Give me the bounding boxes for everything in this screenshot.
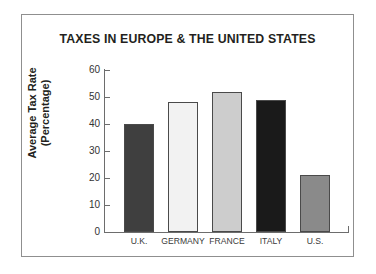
- bar-france: [212, 92, 242, 232]
- x-axis-label-u-k: U.K.: [117, 236, 161, 246]
- plot-area: [104, 70, 348, 232]
- x-axis-label-u-s: U.S.: [293, 236, 337, 246]
- x-axis-end-tick: [348, 226, 349, 233]
- y-axis-tick-label: 30: [78, 146, 100, 156]
- bar-u-s: [300, 175, 330, 232]
- x-axis-label-germany: GERMANY: [161, 236, 205, 246]
- y-axis-tick-label: 60: [78, 65, 100, 75]
- y-axis-tick-label: 50: [78, 92, 100, 102]
- y-axis-tick-label: 10: [78, 200, 100, 210]
- bar-italy: [256, 100, 286, 232]
- bar-u-k: [124, 124, 154, 232]
- y-axis-tick: [105, 232, 110, 233]
- bar-germany: [168, 102, 198, 232]
- x-axis-label-italy: ITALY: [249, 236, 293, 246]
- y-axis-tick-label: 40: [78, 119, 100, 129]
- figure-canvas: TAXES IN EUROPE & THE UNITED STATES Aver…: [0, 0, 376, 274]
- y-axis-tick-label: 20: [78, 173, 100, 183]
- x-axis-line: [104, 232, 349, 233]
- y-axis-title-line2: (Percentage): [39, 38, 52, 188]
- y-axis-title-line1: Average Tax Rate: [26, 38, 39, 188]
- y-axis-tick-label: 0: [78, 227, 100, 237]
- chart-title: TAXES IN EUROPE & THE UNITED STATES: [21, 32, 354, 46]
- y-axis-title: Average Tax Rate (Percentage): [26, 38, 52, 188]
- x-axis-label-france: FRANCE: [205, 236, 249, 246]
